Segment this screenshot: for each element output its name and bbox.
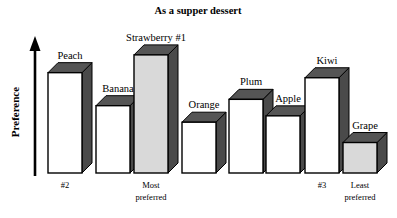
bar-face-strawberry[interactable]	[134, 55, 168, 173]
bar-label-grape: Grape	[352, 120, 378, 131]
bar-face-orange[interactable]	[182, 122, 216, 173]
bar-face-apple[interactable]	[266, 116, 300, 173]
bar-bottom-label-peach: #2	[61, 180, 70, 190]
bar-face-plum[interactable]	[229, 99, 263, 173]
bar-bottom-label-grape: Least	[351, 180, 370, 190]
bar-label-banana: Banana	[102, 83, 134, 94]
bar-face-grape[interactable]	[343, 143, 377, 173]
bar-label-strawberry: Strawberry #1	[126, 32, 186, 43]
bar-label-kiwi: Kiwi	[317, 55, 338, 66]
bar-side-peach	[82, 63, 92, 173]
bar-bottom-label2-strawberry: preferred	[135, 192, 167, 202]
bar-face-peach[interactable]	[48, 73, 82, 173]
y-axis-arrow	[30, 36, 41, 176]
bar-bottom-label2-grape: preferred	[344, 192, 376, 202]
bar-strawberry[interactable]: Strawberry #1Mostpreferred	[126, 32, 186, 202]
bar-chart: As a supper dessert Preference Peach#2Ba…	[0, 0, 397, 218]
bar-label-plum: Plum	[240, 76, 262, 87]
bar-face-kiwi[interactable]	[305, 78, 339, 173]
bar-side-strawberry	[168, 45, 178, 173]
arrow-up-icon	[30, 36, 41, 51]
bar-label-apple: Apple	[275, 93, 301, 104]
bar-label-orange: Orange	[189, 99, 220, 110]
bar-grape[interactable]: GrapeLeastpreferred	[343, 120, 387, 202]
bar-bottom-label-strawberry: Most	[142, 180, 160, 190]
bar-bottom-label-kiwi: #3	[318, 180, 327, 190]
bars-group: Peach#2BananaStrawberry #1MostpreferredO…	[48, 32, 387, 202]
bar-peach[interactable]: Peach#2	[48, 50, 92, 190]
y-axis-label: Preference	[9, 87, 21, 137]
bar-face-banana[interactable]	[96, 106, 130, 173]
bar-orange[interactable]: Orange	[182, 99, 226, 173]
bar-label-peach: Peach	[57, 50, 83, 61]
chart-container: As a supper dessert Preference Peach#2Ba…	[0, 0, 397, 218]
chart-title: As a supper dessert	[154, 5, 242, 16]
